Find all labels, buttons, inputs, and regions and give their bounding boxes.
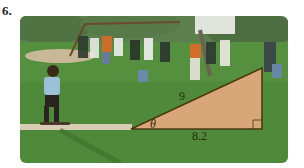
ramp-photo	[20, 16, 288, 163]
problem-number: 6.	[2, 3, 12, 19]
angle-theta-label: θ	[150, 117, 156, 132]
hypotenuse-label: 9	[179, 89, 185, 104]
base-label: 8.2	[192, 129, 207, 144]
